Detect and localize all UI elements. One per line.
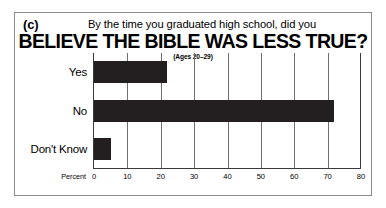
x-tick-label: 60 (290, 172, 298, 181)
x-tick-label: 0 (92, 172, 96, 181)
bar-row: No (94, 100, 361, 122)
bar-row: Don't Know (94, 138, 361, 160)
x-tick-label: 20 (157, 172, 165, 181)
x-tick-label: 70 (323, 172, 331, 181)
figure-panel: (c) By the time you graduated high schoo… (14, 12, 372, 196)
category-label: Yes (69, 66, 87, 78)
x-tick-label: 30 (190, 172, 198, 181)
chart-question-line: By the time you graduated high school, d… (15, 18, 371, 30)
bar (94, 61, 167, 83)
chart-headline: BELIEVE THE BIBLE WAS LESS TRUE? (15, 30, 371, 53)
x-tick-label: 10 (123, 172, 131, 181)
plot-area: YesNoDon't Know 01020304050607080 Percen… (93, 53, 361, 169)
bar (94, 100, 334, 122)
bar-row: Yes (94, 61, 361, 83)
x-tick-label: 50 (257, 172, 265, 181)
x-tick-label: 40 (223, 172, 231, 181)
x-tick-label: 80 (357, 172, 365, 181)
x-axis-title: Percent (61, 172, 86, 181)
bar (94, 138, 111, 160)
category-label: No (73, 105, 87, 117)
category-label: Don't Know (31, 143, 87, 155)
